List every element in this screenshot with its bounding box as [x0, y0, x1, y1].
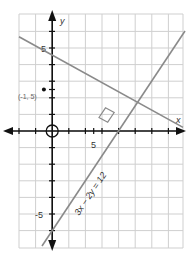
point-label: (-1, 5): [18, 93, 37, 101]
right-angle-marker: [99, 108, 114, 122]
x-axis-arrow-left-icon: [3, 127, 13, 135]
y-axis-arrow-down-icon: [48, 240, 56, 251]
y-tick-label-neg5: -5: [35, 210, 43, 220]
x-axis-arrow-right-icon: [176, 127, 186, 135]
equation-label: 3x − 2y = 12: [72, 170, 108, 217]
x-tick-label-5: 5: [91, 140, 96, 150]
coordinate-graph: y x 5 -5 5 (-1, 5) 3x − 2y = 12: [0, 0, 190, 267]
y-axis-arrow-up-icon: [48, 10, 56, 21]
point-neg1-5: [42, 88, 46, 92]
y-axis-label: y: [59, 16, 65, 26]
